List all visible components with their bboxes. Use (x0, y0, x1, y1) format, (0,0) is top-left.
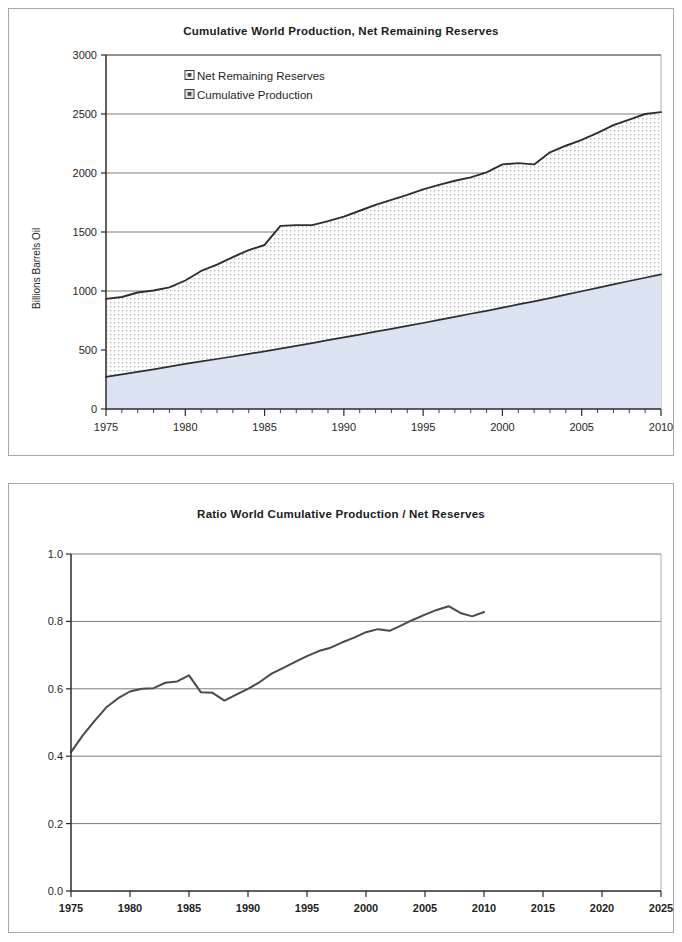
y-tick-label-chart2: 0.8 (19, 615, 63, 627)
x-tick-label-chart2: 2015 (531, 902, 555, 914)
y-tick-label-chart2: 1.0 (19, 548, 63, 560)
x-tick-label-chart2: 1975 (59, 902, 83, 914)
x-tick-label-chart1: 1985 (252, 421, 276, 433)
y-tick-label-chart1: 2000 (49, 167, 97, 179)
x-tick-label-chart2: 2020 (590, 902, 614, 914)
y-tick-label-chart2: 0.4 (19, 750, 63, 762)
x-tick-label-chart2: 1985 (177, 902, 201, 914)
x-tick-label-chart1: 2000 (490, 421, 514, 433)
y-tick-label-chart1: 1500 (49, 226, 97, 238)
x-tick-label-chart2: 2025 (649, 902, 673, 914)
y-tick-label-chart1: 3000 (49, 49, 97, 61)
x-tick-label-chart2: 2005 (413, 902, 437, 914)
legend-item-label-chart1: Cumulative Production (197, 89, 313, 101)
x-tick-label-chart2: 1980 (118, 902, 142, 914)
x-tick-label-chart2: 2000 (354, 902, 378, 914)
y-tick-label-chart1: 0 (49, 403, 97, 415)
x-tick-label-chart2: 1990 (236, 902, 260, 914)
plot-area-1 (9, 9, 675, 457)
y-tick-label-chart2: 0.6 (19, 683, 63, 695)
chart-panel-ratio: Ratio World Cumulative Production / Net … (8, 483, 674, 933)
x-tick-label-chart1: 2005 (569, 421, 593, 433)
y-tick-label-chart1: 500 (49, 344, 97, 356)
x-tick-label-chart1: 1975 (94, 421, 118, 433)
y-tick-label-chart2: 0.2 (19, 818, 63, 830)
y-tick-label-chart2: 0.0 (19, 885, 63, 897)
y-tick-label-chart1: 1000 (49, 285, 97, 297)
x-tick-label-chart2: 1995 (295, 902, 319, 914)
x-tick-label-chart2: 2010 (472, 902, 496, 914)
plot-area-2 (9, 484, 675, 934)
legend-item-label-chart1: Net Remaining Reserves (197, 70, 325, 82)
x-tick-label-chart1: 1980 (173, 421, 197, 433)
y-tick-label-chart1: 2500 (49, 108, 97, 120)
x-tick-label-chart1: 2010 (649, 421, 673, 433)
chart-page: Cumulative World Production, Net Remaini… (0, 0, 682, 942)
x-tick-label-chart1: 1995 (411, 421, 435, 433)
chart-panel-cumulative-production: Cumulative World Production, Net Remaini… (8, 8, 674, 456)
x-tick-label-chart1: 1990 (332, 421, 356, 433)
